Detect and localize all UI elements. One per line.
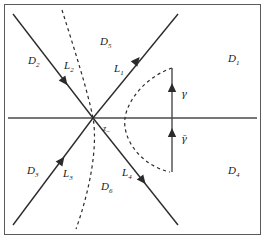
- gamma-arrowhead: [168, 83, 176, 92]
- ray-L3-line: [13, 118, 93, 225]
- ray-label-L2: L2: [63, 59, 74, 74]
- steep-dashed-curve: [62, 10, 94, 229]
- ray-label-L1: L1: [113, 62, 124, 77]
- figure-canvas: D1 D2 D3 D4 D5 D6 L1 L2: [0, 0, 265, 239]
- contour-label-gamma-bar: γ̄: [181, 133, 187, 144]
- region-label-D6: D6: [100, 180, 113, 195]
- region-label-D5: D5: [99, 35, 112, 50]
- figure-frame: [5, 5, 261, 235]
- diagram-svg: D1 D2 D3 D4 D5 D6 L1 L2: [0, 0, 265, 239]
- region-label-D1: D1: [227, 52, 239, 67]
- ray-label-L3: L3: [62, 167, 73, 182]
- gamma-bar-contour: [168, 118, 176, 172]
- contour-labels: γ γ̄: [181, 88, 187, 144]
- ray-L2-line: [13, 14, 93, 118]
- region-label-D3: D3: [26, 164, 39, 179]
- gamma-bar-arrowhead: [168, 128, 176, 137]
- gamma-contour: [168, 68, 176, 118]
- ray-label-L4: L4: [121, 166, 132, 181]
- stokes-rays: [13, 14, 178, 225]
- right-dashed-parabola: [125, 68, 172, 172]
- ray-labels: L1 L2 L3 L4: [62, 59, 132, 182]
- origin-point-label: z−: [102, 124, 110, 136]
- region-label-D4: D4: [227, 164, 240, 179]
- contour-label-gamma: γ: [181, 88, 187, 99]
- ray-L1-arrowhead: [131, 54, 143, 66]
- region-label-D2: D2: [27, 54, 40, 69]
- ray-L1-line: [93, 14, 178, 118]
- region-labels: D1 D2 D3 D4 D5 D6: [26, 35, 240, 195]
